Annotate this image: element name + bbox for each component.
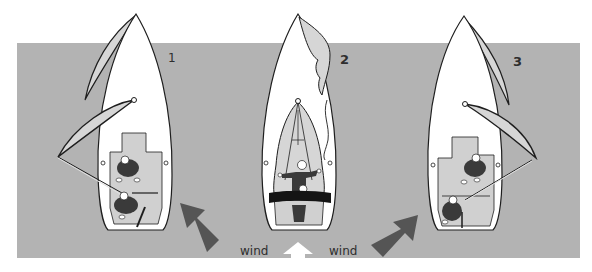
step-number-2: 2 xyxy=(340,53,349,66)
sailing-diagram: 1 2 3 wind wind xyxy=(0,0,592,272)
step-number-1: 1 xyxy=(168,52,176,64)
diagram-canvas xyxy=(0,0,592,272)
wind-label-right: wind xyxy=(329,245,357,257)
step-number-3: 3 xyxy=(513,55,522,68)
wind-label-left: wind xyxy=(240,245,268,257)
